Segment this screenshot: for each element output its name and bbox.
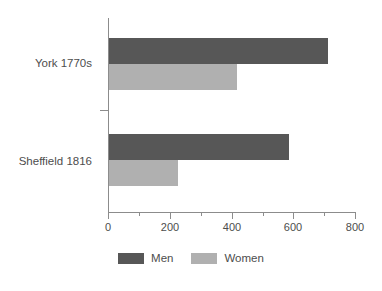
bar-chart: 0 200 400 600 800 York 1770s Sheffield 1… [0,0,382,291]
x-tick-700 [324,213,325,216]
category-separator-tick [100,110,108,111]
x-tick-400 [232,213,233,219]
category-label-sheffield: Sheffield 1816 [19,154,92,168]
x-tick-300 [201,213,202,216]
x-tick-800 [355,213,356,219]
x-tick-600 [293,213,294,219]
legend-label-women: Women [224,252,263,265]
x-tick-label-800: 800 [346,221,364,234]
bar-sheffield-men [109,134,289,160]
legend-swatch-women-icon [191,253,217,264]
chart-legend: Men Women [0,252,382,265]
legend-swatch-men-icon [118,253,144,264]
x-tick-label-0: 0 [105,221,111,234]
x-tick-0 [108,213,109,219]
x-tick-label-600: 600 [284,221,302,234]
legend-entry-women: Women [191,252,263,265]
x-tick-200 [170,213,171,219]
legend-entry-men: Men [118,252,173,265]
x-tick-100 [139,213,140,216]
bar-sheffield-women [109,160,178,186]
x-tick-500 [263,213,264,216]
bar-york-women [109,64,237,90]
legend-label-men: Men [151,252,173,265]
x-tick-label-200: 200 [161,221,179,234]
category-label-york: York 1770s [35,56,92,70]
x-tick-label-400: 400 [223,221,241,234]
bar-york-men [109,38,328,64]
